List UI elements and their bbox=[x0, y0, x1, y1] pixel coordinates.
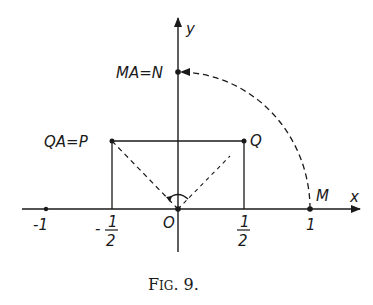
tick-neg-half-num: 1 bbox=[108, 213, 118, 231]
tick-half-num: 1 bbox=[240, 213, 250, 231]
label-p: QA=P bbox=[44, 133, 89, 151]
label-q: Q bbox=[250, 132, 262, 150]
point-origin bbox=[175, 206, 181, 212]
point-neg-one bbox=[44, 207, 48, 211]
label-m: M bbox=[316, 187, 329, 205]
caption-suffix: . 9. bbox=[173, 275, 198, 294]
caption-smallcaps: IG bbox=[159, 279, 173, 293]
point-m bbox=[307, 206, 313, 212]
caption-prefix: F bbox=[148, 275, 159, 294]
x-axis-label: x bbox=[349, 188, 359, 206]
label-origin: O bbox=[163, 214, 175, 232]
point-n bbox=[175, 69, 181, 75]
oq-dashed-line bbox=[178, 156, 230, 209]
label-n: MA=N bbox=[116, 64, 163, 82]
figure-caption: FIG. 9. bbox=[148, 275, 199, 294]
point-q bbox=[242, 139, 247, 144]
tick-neg-half-sign: - bbox=[95, 220, 100, 238]
tick-neg-one: -1 bbox=[33, 216, 48, 234]
tick-half-den: 2 bbox=[238, 232, 248, 250]
figure-9-diagram: y x MA=N QA=P Q M O -1 - 1 2 1 2 1 FIG. … bbox=[0, 0, 373, 305]
arc-arrowhead-icon bbox=[180, 68, 190, 76]
point-p bbox=[110, 139, 115, 144]
tick-neg-half-den: 2 bbox=[106, 232, 116, 250]
tick-one: 1 bbox=[306, 216, 316, 234]
y-axis-label: y bbox=[185, 20, 196, 38]
